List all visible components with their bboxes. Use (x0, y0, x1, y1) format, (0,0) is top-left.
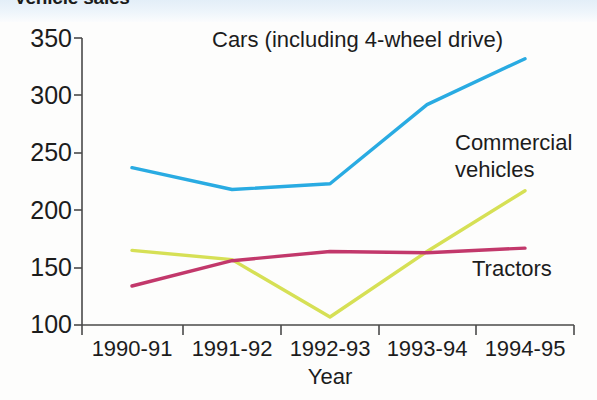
y-tick-label-300: 300 (30, 81, 72, 109)
series-line-commercial-vehicles (132, 191, 525, 317)
series-label-commercial-vehicles-line2: vehicles (455, 157, 534, 182)
series-label-cars: Cars (including 4-wheel drive) (212, 27, 503, 52)
plot-area: 350 300 250 200 150 100 1990-91 (0, 22, 597, 400)
y-tick-label-350: 350 (30, 24, 72, 52)
x-tick-label-1990-91: 1990-91 (92, 336, 173, 361)
x-tick-label-1992-93: 1992-93 (290, 336, 371, 361)
series-line-tractors (132, 248, 525, 286)
y-tick-label-150: 150 (30, 253, 72, 281)
chart-page: Vehicle sales 350 300 250 200 150 100 (0, 0, 597, 400)
y-tick-label-100: 100 (30, 310, 72, 338)
x-tick-label-1994-95: 1994-95 (485, 336, 566, 361)
series-label-tractors: Tractors (472, 256, 552, 281)
chart-title: Vehicle sales (14, 0, 130, 9)
y-tick-label-200: 200 (30, 196, 72, 224)
series-label-commercial-vehicles-line1: Commercial (455, 130, 572, 155)
x-tick-label-1993-94: 1993-94 (387, 336, 468, 361)
y-tick-label-250: 250 (30, 138, 72, 166)
x-axis-title: Year (308, 364, 352, 389)
line-chart-svg: 350 300 250 200 150 100 1990-91 (0, 22, 597, 400)
x-tick-label-1991-92: 1991-92 (192, 336, 273, 361)
